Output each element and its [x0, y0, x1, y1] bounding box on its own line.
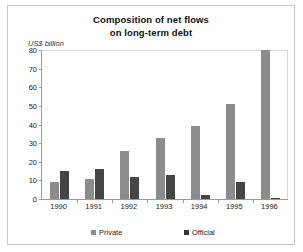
- y-tick-label: 80: [9, 46, 37, 55]
- bar-private-1996: [261, 50, 270, 199]
- x-axis-label-1996: 1996: [261, 202, 278, 211]
- plot-top-border: [42, 50, 288, 51]
- y-tick-mark: [39, 106, 42, 107]
- y-tick-label: 0: [9, 195, 37, 204]
- x-tick-mark: [77, 200, 78, 203]
- y-tick-mark: [39, 143, 42, 144]
- bar-private-1994: [191, 126, 200, 199]
- y-tick-mark: [39, 69, 42, 70]
- legend-label: Private: [99, 228, 122, 237]
- chart-title: Composition of net flows on long-term de…: [8, 14, 294, 39]
- y-tick-mark: [39, 87, 42, 88]
- x-axis-label-1992: 1992: [121, 202, 138, 211]
- plot-area: 01020304050607080: [41, 50, 288, 200]
- y-tick-label: 20: [9, 157, 37, 166]
- chart-title-line-2: on long-term debt: [8, 27, 294, 40]
- x-axis-label-1995: 1995: [226, 202, 243, 211]
- bar-official-1992: [130, 177, 139, 199]
- bar-official-1996: [271, 198, 280, 199]
- legend-swatch-private-icon: [91, 230, 96, 235]
- legend-label: Official: [192, 228, 215, 237]
- x-tick-mark: [112, 200, 113, 203]
- chart-frame: Composition of net flows on long-term de…: [7, 5, 295, 245]
- chart-legend: PrivateOfficial: [8, 228, 294, 240]
- bar-official-1991: [95, 169, 104, 199]
- plot-right-border: [287, 50, 288, 199]
- x-tick-mark: [253, 200, 254, 203]
- y-tick-label: 50: [9, 101, 37, 110]
- bar-private-1992: [120, 151, 129, 199]
- bar-official-1993: [166, 175, 175, 199]
- y-tick-label: 30: [9, 139, 37, 148]
- x-axis-label-1991: 1991: [85, 202, 102, 211]
- legend-item-official: Official: [184, 228, 215, 237]
- x-axis-label-1994: 1994: [191, 202, 208, 211]
- y-tick-mark: [39, 50, 42, 51]
- legend-swatch-official-icon: [184, 230, 189, 235]
- y-tick-mark: [39, 180, 42, 181]
- y-tick-label: 10: [9, 176, 37, 185]
- chart-title-line-1: Composition of net flows: [8, 14, 294, 27]
- y-tick-label: 70: [9, 64, 37, 73]
- y-tick-mark: [39, 125, 42, 126]
- bar-private-1990: [50, 182, 59, 199]
- legend-item-private: Private: [91, 228, 122, 237]
- bar-private-1995: [226, 104, 235, 199]
- x-tick-mark: [218, 200, 219, 203]
- bar-official-1994: [201, 195, 210, 199]
- bar-private-1991: [85, 179, 94, 199]
- y-tick-mark: [39, 199, 42, 200]
- y-tick-label: 40: [9, 120, 37, 129]
- x-axis-label-1990: 1990: [50, 202, 67, 211]
- x-tick-mark: [147, 200, 148, 203]
- bar-official-1990: [60, 171, 69, 199]
- bar-official-1995: [236, 182, 245, 199]
- y-tick-label: 60: [9, 83, 37, 92]
- x-tick-mark: [183, 200, 184, 203]
- bar-private-1993: [156, 138, 165, 199]
- y-tick-mark: [39, 162, 42, 163]
- x-axis-label-1993: 1993: [156, 202, 173, 211]
